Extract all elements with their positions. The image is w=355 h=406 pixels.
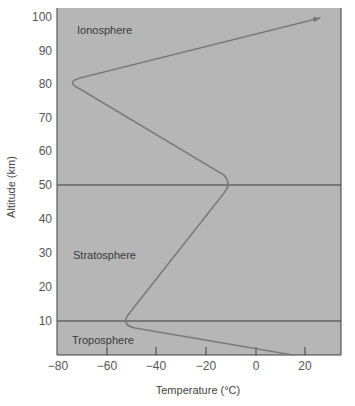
svg-text:100: 100 <box>32 10 52 24</box>
x-axis-tick-labels: −80 −60 −40 −20 0 20 <box>48 359 312 373</box>
svg-text:90: 90 <box>39 44 53 58</box>
svg-text:60: 60 <box>39 144 53 158</box>
svg-text:40: 40 <box>39 212 53 226</box>
temperature-altitude-chart: Ionosphere Stratosphere Troposphere 100 … <box>0 0 355 406</box>
svg-text:20: 20 <box>298 359 312 373</box>
svg-text:80: 80 <box>39 77 53 91</box>
y-axis-tick-labels: 100 90 80 70 60 50 40 30 20 10 <box>32 10 52 328</box>
svg-text:70: 70 <box>39 111 53 125</box>
stratosphere-label: Stratosphere <box>73 249 136 261</box>
ionosphere-label: Ionosphere <box>77 24 132 36</box>
svg-text:20: 20 <box>39 280 53 294</box>
svg-text:10: 10 <box>39 314 53 328</box>
svg-text:30: 30 <box>39 246 53 260</box>
svg-text:−40: −40 <box>146 359 167 373</box>
svg-text:0: 0 <box>253 359 260 373</box>
troposphere-label: Troposphere <box>72 334 134 346</box>
svg-text:50: 50 <box>39 178 53 192</box>
plot-area <box>57 8 341 355</box>
y-axis-title: Altitude (km) <box>5 156 17 218</box>
svg-text:−20: −20 <box>196 359 217 373</box>
svg-text:−80: −80 <box>48 359 69 373</box>
svg-text:−60: −60 <box>97 359 118 373</box>
x-axis-title: Temperature (°C) <box>156 384 240 396</box>
